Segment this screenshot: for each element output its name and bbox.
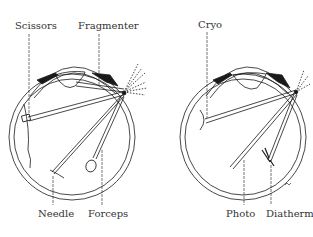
label-scissors: Scissors xyxy=(15,20,57,31)
label-needle: Needle xyxy=(38,208,74,219)
eye-instruments-diagram xyxy=(0,0,313,237)
label-fragmenter: Fragmenter xyxy=(78,20,139,31)
right-eye xyxy=(180,32,310,205)
label-photo: Photo xyxy=(226,208,255,219)
left-eye xyxy=(9,34,147,205)
label-cryo: Cryo xyxy=(198,19,222,30)
label-forceps: Forceps xyxy=(88,208,128,219)
label-diathermy: Diathermy xyxy=(266,208,313,219)
